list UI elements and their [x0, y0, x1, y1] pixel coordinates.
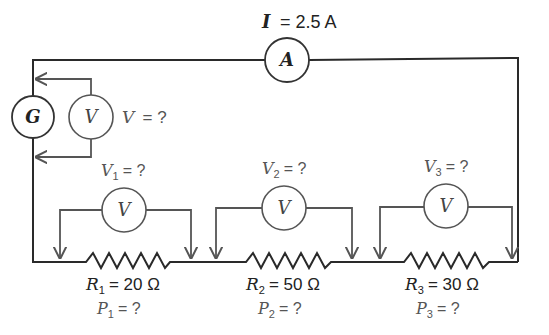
voltmeter-v1-symbol: V [118, 199, 133, 220]
p3-subscript: 3 [427, 308, 433, 320]
r3-symbol: R [404, 274, 418, 294]
svg-text:V3= ?: V3= ? [424, 157, 468, 178]
resistor-r3: V V3= ? R3= 30 Ω P3= ? [380, 157, 512, 320]
resistor-r1: V V1= ? R1= 20 Ω P1= ? [60, 161, 191, 320]
circuit-svg: A I = 2.5 A G V V = ? V V1= ? R1= 20 [0, 0, 549, 335]
top-wire-left [33, 60, 265, 96]
r2-value: = 50 Ω [269, 275, 320, 294]
p1-subscript: 1 [108, 308, 114, 320]
resistor-r3-zigzag [400, 253, 494, 268]
r2-subscript: 2 [259, 284, 265, 296]
current-symbol: I [261, 11, 271, 32]
voltmeter-v2-probe-left [216, 208, 262, 258]
r1-value: = 20 Ω [109, 275, 160, 294]
voltmeter-v3-probe-left [380, 207, 424, 258]
svg-text:P1= ?: P1= ? [96, 299, 141, 320]
source-voltage-value: = ? [143, 108, 167, 127]
r1-symbol: R [85, 274, 99, 294]
generator-symbol: G [25, 106, 40, 127]
top-wire-right [309, 58, 518, 262]
resistor-r2-zigzag [240, 253, 335, 268]
p3-value: = ? [437, 300, 460, 317]
svg-text:V1= ?: V1= ? [101, 161, 145, 182]
svg-text:I = 2.5 A: I = 2.5 A [261, 11, 336, 32]
current-label: I = 2.5 A [261, 11, 336, 32]
v2-value: = ? [284, 160, 307, 177]
r2-symbol: R [245, 274, 259, 294]
p1-value: = ? [118, 300, 141, 317]
v3-subscript: 3 [436, 166, 442, 178]
voltmeter-v1-probe-left [60, 210, 102, 258]
source-voltmeter-symbol: V [85, 106, 100, 127]
resistor-r2: V V2= ? R2= 50 Ω P2= ? [216, 159, 352, 320]
source-voltmeter: V V = ? [36, 79, 167, 157]
v2-subscript: 2 [274, 168, 280, 180]
resistor-r1-zigzag [80, 253, 174, 268]
source-voltmeter-probe-bottom [36, 139, 91, 157]
p3-symbol: P [415, 299, 427, 318]
voltmeter-v1-probe-right [146, 210, 191, 258]
p2-value: = ? [279, 300, 302, 317]
svg-text:P3= ?: P3= ? [415, 299, 460, 320]
svg-text:R3= 30 Ω: R3= 30 Ω [404, 274, 479, 296]
ammeter-symbol: A [278, 49, 294, 70]
svg-text:R1= 20 Ω: R1= 20 Ω [85, 274, 160, 296]
r3-subscript: 3 [418, 284, 424, 296]
voltmeter-v2-probe-right [306, 208, 352, 258]
voltmeter-v3-probe-right [468, 207, 512, 258]
p2-subscript: 2 [269, 308, 275, 320]
r1-subscript: 1 [99, 284, 105, 296]
r3-value: = 30 Ω [428, 275, 479, 294]
source-voltage-symbol: V [122, 107, 136, 127]
v3-value: = ? [446, 158, 469, 175]
svg-text:V = ?: V = ? [122, 107, 167, 127]
v1-value: = ? [123, 162, 146, 179]
p2-symbol: P [257, 299, 269, 318]
svg-text:P2= ?: P2= ? [257, 299, 302, 320]
current-value: = 2.5 A [280, 12, 337, 32]
generator: G [12, 96, 54, 138]
circuit-diagram: A I = 2.5 A G V V = ? V V1= ? R1= 20 [0, 0, 549, 335]
p1-symbol: P [96, 299, 108, 318]
source-voltmeter-probe-top [36, 79, 91, 95]
voltmeter-v3-symbol: V [440, 195, 455, 216]
voltmeter-v2-symbol: V [278, 197, 293, 218]
svg-text:V2= ?: V2= ? [262, 159, 306, 180]
ammeter: A [265, 38, 309, 82]
svg-text:R2= 50 Ω: R2= 50 Ω [245, 274, 320, 296]
v1-subscript: 1 [113, 170, 119, 182]
